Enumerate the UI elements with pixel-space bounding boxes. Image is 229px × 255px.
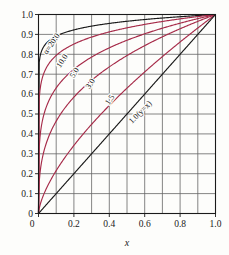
x-tick-label: 0.6: [139, 219, 151, 229]
y-tick-label: 1.0: [21, 10, 33, 20]
x-tick-label: 0: [30, 219, 35, 229]
y-tick-label: 0.7: [21, 70, 33, 80]
y-tick-label: 0.2: [21, 169, 33, 179]
x-tick-label: 0.4: [103, 219, 115, 229]
y-tick-label: 0.6: [21, 89, 33, 99]
y-tick-label: 0.1: [21, 189, 33, 199]
y-tick-label: 0.9: [21, 30, 33, 40]
plot-svg: 00.20.40.60.81.0 00.10.20.30.40.50.60.70…: [0, 0, 229, 255]
y-tick-label: 0.4: [21, 129, 33, 139]
y-tick-label: 0.3: [21, 149, 33, 159]
x-tick-label: 1.0: [210, 219, 222, 229]
x-tick-label: 0.8: [174, 219, 186, 229]
y-tick-label: 0: [28, 209, 33, 219]
y-tick-label: 0.8: [21, 50, 33, 60]
chart-figure: 00.20.40.60.81.0 00.10.20.30.40.50.60.70…: [0, 0, 229, 255]
x-axis-title: x: [124, 237, 130, 248]
x-tick-label: 0.2: [68, 219, 80, 229]
y-tick-label: 0.5: [21, 109, 33, 119]
